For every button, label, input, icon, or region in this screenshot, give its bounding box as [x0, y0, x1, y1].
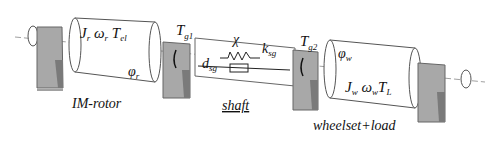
drivetrain-diagram: Jr ωr Tel φr IM-rotor Tg1 χ ksg dsg shaf…	[0, 0, 494, 142]
gear2-support	[293, 50, 318, 110]
left-bearing-support	[28, 26, 63, 90]
shaft-caption: shaft	[222, 98, 250, 113]
rotor-caption: IM-rotor	[71, 96, 122, 111]
wheelset-caption: wheelset+load	[313, 118, 397, 133]
shaft-chi-label: χ	[231, 32, 240, 47]
gear1-support	[163, 42, 190, 98]
right-bearing-support	[418, 63, 471, 122]
gear1-torque-label: Tg1	[176, 22, 193, 41]
gear2-torque-label: Tg2	[300, 33, 318, 52]
shaft-k-label: ksg	[262, 41, 277, 58]
shaft-cylinder	[195, 38, 295, 86]
